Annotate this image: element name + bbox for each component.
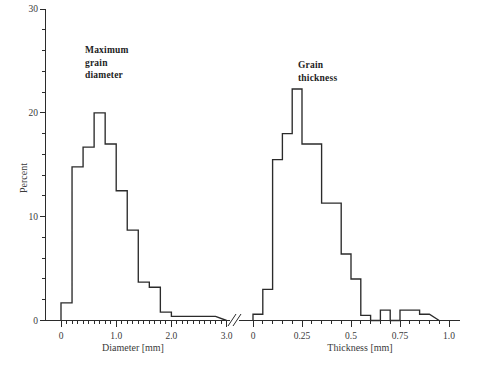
y-tick-label: 0 — [33, 316, 38, 326]
left-x-axis-tick-labels: 01.02.03.0 — [59, 331, 233, 341]
histogram-plot: 0102030 Percent 01.02.03.0 Diameter [mm]… — [0, 0, 485, 373]
x-tick-label: 0 — [59, 331, 64, 341]
axis-break-marker — [222, 314, 247, 326]
x-tick-label: 0.5 — [345, 331, 357, 341]
right-x-axis-ticks — [253, 321, 449, 327]
right-x-axis-tick-labels: 00.250.50.751.0 — [251, 331, 456, 341]
x-tick-label: 3.0 — [221, 331, 233, 341]
histogram-outline-diameter — [61, 113, 227, 321]
x-tick-label: 2.0 — [165, 331, 177, 341]
y-axis: 0102030 Percent — [18, 4, 46, 326]
y-axis-tick-labels: 0102030 — [29, 4, 39, 326]
x-tick-label: 0 — [251, 331, 256, 341]
left-x-axis-ticks — [61, 321, 227, 327]
right-x-axis-title: Thickness [mm] — [327, 342, 392, 353]
y-tick-label: 20 — [29, 108, 39, 118]
y-axis-ticks — [40, 9, 46, 321]
y-axis-title: Percent — [18, 163, 29, 193]
chart-figure: Maximum grain diameter Grain thickness 0… — [0, 0, 485, 373]
x-tick-label: 1.0 — [443, 331, 455, 341]
panel-maximum-grain-diameter: 01.02.03.0 Diameter [mm] — [46, 113, 233, 353]
histogram-outline-thickness — [253, 89, 439, 321]
x-tick-label: 0.75 — [392, 331, 409, 341]
y-tick-label: 30 — [29, 4, 39, 14]
x-tick-label: 0.25 — [294, 331, 311, 341]
left-x-axis-title: Diameter [mm] — [102, 342, 164, 353]
y-tick-label: 10 — [29, 212, 39, 222]
panel-grain-thickness: 00.250.50.751.0 Thickness [mm] — [247, 89, 460, 353]
x-tick-label: 1.0 — [110, 331, 122, 341]
